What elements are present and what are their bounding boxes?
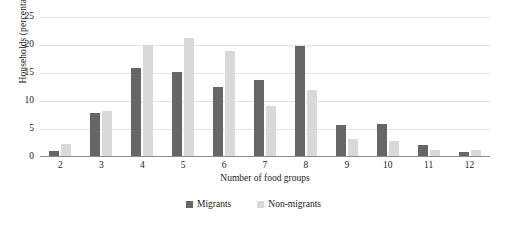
- bar-group: [326, 17, 367, 156]
- chart-legend: MigrantsNon-migrants: [0, 199, 507, 209]
- bar: [61, 144, 71, 156]
- bar: [418, 145, 428, 156]
- bar: [348, 139, 358, 156]
- legend-swatch-icon: [186, 201, 193, 208]
- bar: [213, 87, 223, 156]
- x-tick-label: 11: [408, 160, 449, 171]
- legend-entry[interactable]: Non-migrants: [257, 199, 321, 209]
- bar: [389, 141, 399, 156]
- x-axis-line: [40, 156, 490, 157]
- y-tick-label: 15: [4, 68, 34, 78]
- grouped-bar-chart: Households (percentage) 2520151050 23456…: [0, 0, 507, 225]
- x-tick-label: 9: [326, 160, 367, 171]
- y-tick-label: 0: [4, 152, 34, 162]
- x-tick-label: 8: [285, 160, 326, 171]
- bar: [225, 51, 235, 156]
- bar-group: [40, 17, 81, 156]
- x-tick-label: 2: [40, 160, 81, 171]
- bar-group: [408, 17, 449, 156]
- bar: [336, 125, 346, 156]
- bar: [266, 106, 276, 156]
- bar-group: [163, 17, 204, 156]
- x-tick-label: 6: [204, 160, 245, 171]
- x-tick-label: 4: [122, 160, 163, 171]
- bar: [295, 46, 305, 156]
- bar-group: [367, 17, 408, 156]
- x-tick-label: 12: [449, 160, 490, 171]
- bar: [254, 80, 264, 156]
- bar: [377, 124, 387, 156]
- bar-group: [122, 17, 163, 156]
- bar-group: [204, 17, 245, 156]
- y-tick-label: 10: [4, 96, 34, 106]
- bar: [90, 113, 100, 156]
- x-tick-label: 10: [367, 160, 408, 171]
- x-tick-label: 5: [163, 160, 204, 171]
- bar-group: [245, 17, 286, 156]
- bar-group: [449, 17, 490, 156]
- y-axis-tick-labels: 2520151050: [0, 17, 34, 157]
- bar: [143, 45, 153, 156]
- legend-entry[interactable]: Migrants: [186, 199, 231, 209]
- bar: [102, 111, 112, 156]
- bar: [184, 38, 194, 156]
- x-tick-label: 3: [81, 160, 122, 171]
- legend-label: Non-migrants: [268, 199, 321, 209]
- legend-swatch-icon: [257, 201, 264, 208]
- bar-group: [81, 17, 122, 156]
- bars-layer: [40, 17, 490, 156]
- y-tick-label: 25: [4, 12, 34, 22]
- bar: [172, 72, 182, 156]
- legend-label: Migrants: [197, 199, 231, 209]
- x-tick-label: 7: [245, 160, 286, 171]
- plot-area: [40, 17, 490, 157]
- bar: [307, 90, 317, 156]
- x-axis-tick-labels: 23456789101112: [40, 160, 490, 171]
- y-tick-label: 20: [4, 40, 34, 50]
- bar-group: [285, 17, 326, 156]
- bar: [131, 68, 141, 156]
- x-axis-title: Number of food groups: [40, 173, 490, 183]
- y-tick-label: 5: [4, 124, 34, 134]
